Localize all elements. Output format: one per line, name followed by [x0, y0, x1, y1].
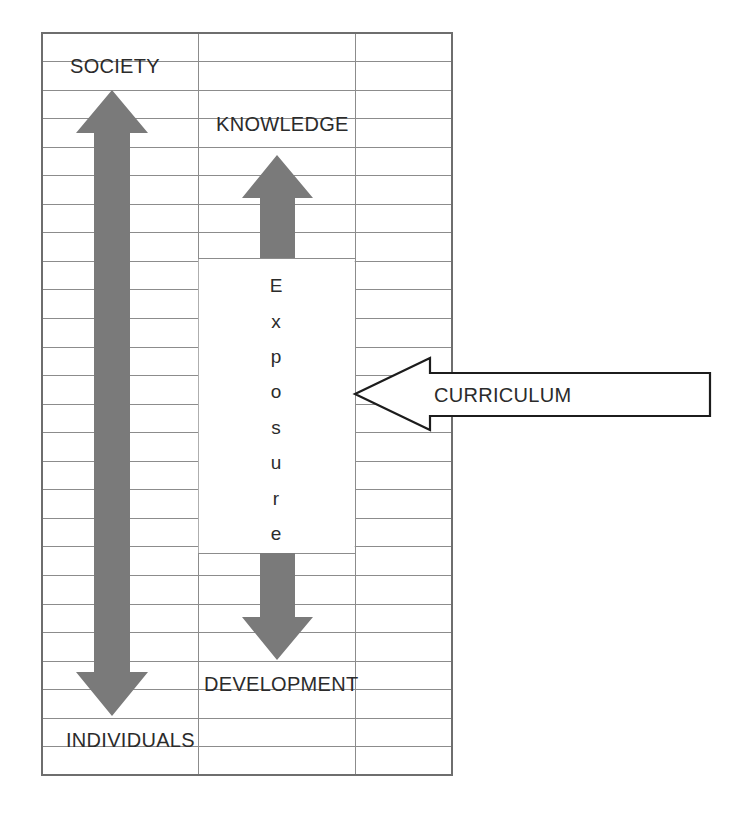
- exposure-letter: x: [271, 303, 281, 338]
- label-knowledge: KNOWLEDGE: [216, 113, 349, 136]
- label-society: SOCIETY: [70, 55, 160, 78]
- exposure-letter: p: [271, 339, 282, 374]
- diagram-canvas: SOCIETY KNOWLEDGE DEVELOPMENT INDIVIDUAL…: [0, 0, 747, 820]
- label-exposure-vertical: Exposure: [248, 268, 304, 551]
- label-development: DEVELOPMENT: [204, 673, 358, 696]
- label-curriculum: CURRICULUM: [434, 384, 571, 407]
- exposure-letter: u: [271, 445, 282, 480]
- exposure-letter: s: [271, 410, 281, 445]
- exposure-letter: o: [271, 374, 282, 409]
- diagram-graphics: [0, 0, 747, 820]
- exposure-letter: E: [270, 268, 283, 303]
- exposure-letter: e: [271, 516, 282, 551]
- label-individuals: INDIVIDUALS: [66, 729, 195, 752]
- exposure-letter: r: [273, 480, 279, 515]
